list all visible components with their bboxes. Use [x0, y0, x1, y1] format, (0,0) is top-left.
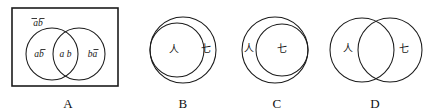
diagram-c-svg: 人 七 [230, 0, 324, 94]
glyph-outer-b: 七 [201, 43, 211, 54]
figure-root: ab ab a b ba A 人 七 B [0, 0, 426, 111]
label-right-only-group: ba [88, 49, 99, 59]
label-left-only-group: ab [34, 49, 45, 59]
diagram-panel-d: 人 七 D [324, 0, 426, 111]
glyph-right-d: 七 [399, 43, 409, 54]
panel-caption-c: C [230, 97, 324, 110]
diagram-a-svg: ab ab a b ba [0, 0, 136, 94]
diagram-b-svg: 人 七 [136, 0, 230, 94]
glyph-inner-c: 七 [277, 43, 287, 54]
diagram-panel-b: 人 七 B [136, 0, 230, 111]
glyph-left-d: 人 [343, 43, 353, 54]
diagram-panel-a: ab ab a b ba A [0, 0, 136, 111]
universe-rectangle [12, 8, 118, 86]
label-right-only: ba [88, 49, 98, 59]
panel-caption-b: B [136, 97, 230, 110]
left-circle-d [330, 18, 394, 82]
panel-caption-d: D [324, 97, 426, 110]
label-left-only: ab [34, 49, 44, 59]
label-universe-group: ab [32, 18, 45, 28]
glyph-outer-c: 人 [244, 43, 254, 54]
glyph-inner-b: 人 [169, 44, 179, 55]
diagram-panel-c: 人 七 C [230, 0, 324, 111]
panel-caption-a: A [0, 97, 136, 110]
right-circle-d [358, 18, 422, 82]
diagram-d-svg: 人 七 [324, 0, 426, 94]
label-universe: ab [33, 18, 43, 28]
label-intersection: a b [60, 49, 72, 59]
